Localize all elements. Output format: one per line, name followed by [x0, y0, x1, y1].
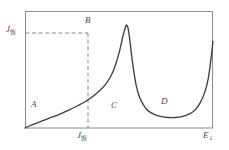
current-density-curve: [25, 25, 213, 128]
x-axis-tick-label-saturation: J饱: [77, 131, 87, 141]
plot-area: [0, 0, 229, 150]
x-tick-subscript: 饱: [81, 135, 87, 141]
x-axis-subscript: ↓: [209, 135, 214, 141]
curve-annotation-a: A: [31, 100, 37, 109]
x-axis-label: E↓: [203, 131, 213, 141]
plot-frame: [26, 12, 213, 129]
curve-annotation-b: B: [85, 16, 91, 25]
curve-annotation-d: D: [161, 97, 168, 106]
y-axis-tick-label-saturation: J饱: [6, 25, 16, 35]
curve-annotation-c: C: [111, 101, 117, 110]
y-axis-subscript: 饱: [10, 29, 16, 35]
figure-container: J饱 J饱 E↓ A B C D: [0, 0, 229, 150]
